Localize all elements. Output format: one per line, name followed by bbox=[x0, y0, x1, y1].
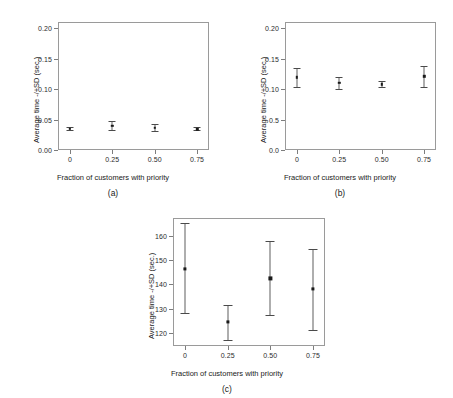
errorbar-cap-upper bbox=[336, 77, 343, 78]
y-tick-mark bbox=[169, 333, 173, 334]
y-tick-label: 160 bbox=[155, 233, 167, 240]
x-tick-label: 0.50 bbox=[263, 352, 277, 359]
data-point-marker bbox=[381, 83, 383, 85]
errorbar-cap-upper bbox=[223, 305, 232, 306]
data-point-marker bbox=[296, 76, 298, 78]
y-tick-label: 0.20 bbox=[265, 25, 279, 32]
y-tick-label: 0.5 bbox=[269, 116, 279, 123]
y-tick-mark bbox=[281, 59, 285, 60]
y-tick-mark bbox=[169, 260, 173, 261]
y-tick-label: 120 bbox=[155, 329, 167, 336]
x-axis-title-a: Fraction of customers with priority bbox=[0, 173, 226, 182]
data-point-marker bbox=[154, 127, 156, 129]
y-tick-mark bbox=[54, 120, 58, 121]
x-tick-label: 0.25 bbox=[105, 156, 119, 163]
x-tick-mark bbox=[313, 346, 314, 350]
data-point-marker bbox=[269, 277, 272, 280]
y-tick-mark bbox=[281, 120, 285, 121]
data-point-marker bbox=[111, 124, 113, 126]
errorbar-cap-upper bbox=[293, 68, 300, 69]
x-tick-label: 0.75 bbox=[306, 352, 320, 359]
y-tick-mark bbox=[281, 89, 285, 90]
errorbar-cap-lower bbox=[378, 87, 385, 88]
errorbar-cap-lower bbox=[66, 130, 73, 131]
y-tick-mark bbox=[169, 236, 173, 237]
x-tick-label: 0 bbox=[183, 352, 187, 359]
y-tick-label: 0.10 bbox=[38, 86, 52, 93]
errorbar-cap-lower bbox=[421, 87, 428, 88]
x-tick-mark bbox=[297, 150, 298, 154]
y-tick-label: 0.10 bbox=[265, 86, 279, 93]
x-tick-mark bbox=[70, 150, 71, 154]
y-axis-title-b: Average time -/+SD (sec.) bbox=[259, 57, 268, 143]
y-tick-label: 0.20 bbox=[38, 25, 52, 32]
x-axis-title-b: Fraction of customers with priority bbox=[227, 173, 453, 182]
errorbar-cap-lower bbox=[293, 87, 300, 88]
data-point-marker bbox=[311, 288, 314, 291]
y-tick-label: 0.05 bbox=[38, 116, 52, 123]
data-point-marker bbox=[183, 267, 186, 270]
errorbar-cap-upper bbox=[180, 223, 189, 224]
y-tick-label: 150 bbox=[155, 257, 167, 264]
y-tick-mark bbox=[54, 150, 58, 151]
x-tick-mark bbox=[185, 346, 186, 350]
x-tick-label: 0.50 bbox=[375, 156, 389, 163]
y-tick-label: 0.0 bbox=[269, 147, 279, 154]
y-tick-label: 0.15 bbox=[38, 55, 52, 62]
data-point-marker bbox=[423, 75, 425, 77]
y-tick-mark bbox=[54, 89, 58, 90]
y-tick-label: 0.15 bbox=[265, 55, 279, 62]
y-tick-mark bbox=[54, 28, 58, 29]
errorbar-cap-upper bbox=[378, 81, 385, 82]
data-point-marker bbox=[69, 127, 71, 129]
data-point-marker bbox=[196, 128, 198, 130]
x-tick-label: 0.75 bbox=[417, 156, 431, 163]
data-point-marker bbox=[226, 320, 229, 323]
errorbar-cap-lower bbox=[309, 330, 318, 331]
plot-frame-c bbox=[173, 218, 325, 346]
errorbar-cap-lower bbox=[180, 313, 189, 314]
x-tick-mark bbox=[112, 150, 113, 154]
x-tick-mark bbox=[339, 150, 340, 154]
y-axis-title-a: Average time -/+SD (sec.) bbox=[32, 57, 41, 143]
x-tick-mark bbox=[155, 150, 156, 154]
errorbar-cap-upper bbox=[309, 249, 318, 250]
x-tick-mark bbox=[424, 150, 425, 154]
errorbar-cap-lower bbox=[109, 130, 116, 131]
y-tick-label: 130 bbox=[155, 305, 167, 312]
x-tick-label: 0.25 bbox=[332, 156, 346, 163]
x-tick-label: 0.25 bbox=[221, 352, 235, 359]
errorbar-cap-lower bbox=[336, 89, 343, 90]
x-tick-label: 0 bbox=[68, 156, 72, 163]
errorbar-cap-lower bbox=[223, 340, 232, 341]
errorbar-cap-lower bbox=[194, 130, 201, 131]
x-tick-mark bbox=[382, 150, 383, 154]
y-axis-title-c: Average time -/+SD (sec.) bbox=[147, 253, 156, 339]
y-tick-mark bbox=[281, 150, 285, 151]
y-tick-mark bbox=[281, 28, 285, 29]
x-axis-title-c: Fraction of customers with priority bbox=[113, 369, 341, 378]
x-tick-mark bbox=[228, 346, 229, 350]
errorbar-cap-upper bbox=[151, 124, 158, 125]
x-tick-mark bbox=[270, 346, 271, 350]
panel-caption-b: (b) bbox=[227, 188, 453, 198]
x-tick-label: 0 bbox=[295, 156, 299, 163]
panel-caption-a: (a) bbox=[0, 188, 226, 198]
y-tick-mark bbox=[54, 59, 58, 60]
errorbar-cap-lower bbox=[151, 131, 158, 132]
panel-b: Average time -/+SD (sec.) Fraction of cu… bbox=[227, 0, 453, 198]
x-tick-label: 0.50 bbox=[148, 156, 162, 163]
panel-caption-c: (c) bbox=[113, 384, 341, 394]
data-point-marker bbox=[338, 82, 340, 84]
errorbar-cap-upper bbox=[421, 66, 428, 67]
y-tick-mark bbox=[169, 309, 173, 310]
x-tick-mark bbox=[197, 150, 198, 154]
y-tick-label: 140 bbox=[155, 281, 167, 288]
errorbar-cap-lower bbox=[266, 315, 275, 316]
plot-frame-a bbox=[58, 22, 209, 150]
panel-c: Average time -/+SD (sec.) Fraction of cu… bbox=[113, 198, 341, 398]
y-tick-label: 0.00 bbox=[38, 147, 52, 154]
errorbar-cap-upper bbox=[109, 121, 116, 122]
errorbar-cap-upper bbox=[266, 241, 275, 242]
panel-a: Average time -/+SD (sec.) Fraction of cu… bbox=[0, 0, 226, 198]
